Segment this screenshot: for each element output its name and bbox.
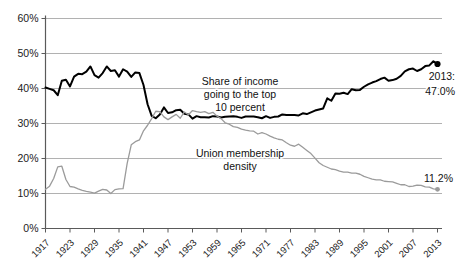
series-end-marker-income-top10 bbox=[434, 61, 440, 67]
y-tick-label: 60% bbox=[17, 12, 38, 24]
chart-container: 60%50%40%30%20%10%0% 1917192319291935194… bbox=[0, 0, 458, 274]
end-label-income-value: 47.0% bbox=[425, 85, 455, 97]
series-end-marker-union-density bbox=[435, 187, 440, 192]
chart-background bbox=[0, 0, 458, 274]
y-tick-label: 50% bbox=[17, 47, 38, 59]
annotation-income-line2: going to the top bbox=[204, 88, 277, 100]
annotation-union-line2: density bbox=[223, 160, 257, 172]
income-union-line-chart: 60%50%40%30%20%10%0% 1917192319291935194… bbox=[0, 0, 458, 274]
end-label-income-year: 2013: bbox=[429, 70, 455, 82]
y-tick-label: 30% bbox=[17, 117, 38, 129]
y-tick-label: 20% bbox=[17, 152, 38, 164]
annotation-income-line1: Share of income bbox=[202, 75, 279, 87]
end-label-union-value: 11.2% bbox=[424, 172, 453, 184]
y-tick-label: 40% bbox=[17, 82, 38, 94]
y-tick-label: 0% bbox=[23, 222, 38, 234]
annotation-union-line1: Union membership bbox=[196, 147, 284, 159]
y-tick-label: 10% bbox=[17, 187, 38, 199]
annotation-income-line3: 10 percent bbox=[215, 101, 265, 113]
